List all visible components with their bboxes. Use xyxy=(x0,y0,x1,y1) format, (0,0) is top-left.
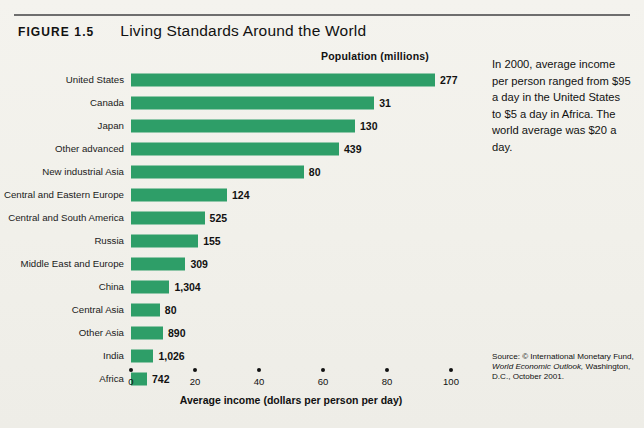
bar-row: Central and South America525 xyxy=(0,206,470,229)
figure-title: Living Standards Around the World xyxy=(120,22,366,40)
bar-track: 890 xyxy=(131,321,470,344)
header-divider xyxy=(14,14,630,16)
bar-row: Russia155 xyxy=(0,229,470,252)
bar xyxy=(131,165,304,178)
bar-row: India1,026 xyxy=(0,344,470,367)
bar-row: China1,304 xyxy=(0,275,470,298)
axis-tick-dot xyxy=(449,368,453,372)
bar xyxy=(131,142,339,155)
axis-tick-dot xyxy=(321,368,325,372)
source-publication: World Economic Outlook, xyxy=(492,362,583,371)
population-value: 1,304 xyxy=(174,281,200,293)
bar-row: Other Asia890 xyxy=(0,321,470,344)
population-value: 277 xyxy=(440,74,458,86)
bar-track: 130 xyxy=(131,114,470,137)
axis-tick-label: 20 xyxy=(190,376,201,387)
bar-row: United States277 xyxy=(0,68,470,91)
figure-number: FIGURE 1.5 xyxy=(18,25,94,39)
bar xyxy=(131,349,153,362)
category-label: Canada xyxy=(0,97,131,108)
category-label: Central and South America xyxy=(0,212,131,223)
category-label: Africa xyxy=(0,373,131,384)
bar xyxy=(131,211,205,224)
bar xyxy=(131,119,355,132)
category-label: Japan xyxy=(0,120,131,131)
category-label: Russia xyxy=(0,235,131,246)
bar-row: Canada31 xyxy=(0,91,470,114)
axis-tick-dot xyxy=(193,368,197,372)
population-value: 124 xyxy=(232,189,250,201)
population-value: 439 xyxy=(344,143,362,155)
bar-track: 1,026 xyxy=(131,344,470,367)
category-label: United States xyxy=(0,74,131,85)
category-label: Other Asia xyxy=(0,327,131,338)
axis-tick-label: 100 xyxy=(443,376,459,387)
bar-row: Other advanced439 xyxy=(0,137,470,160)
population-value: 309 xyxy=(190,258,208,270)
bar xyxy=(131,96,374,109)
bar-track: 277 xyxy=(131,68,470,91)
axis-tick-dot xyxy=(129,368,133,372)
bar-track: 525 xyxy=(131,206,470,229)
axis-tick-label: 80 xyxy=(382,376,393,387)
side-note: In 2000, average income per person range… xyxy=(492,56,632,156)
bar-track: 124 xyxy=(131,183,470,206)
bar xyxy=(131,234,198,247)
bar-row: Middle East and Europe309 xyxy=(0,252,470,275)
bar-track: 80 xyxy=(131,160,470,183)
population-value: 130 xyxy=(360,120,378,132)
bar xyxy=(131,73,435,86)
population-value: 80 xyxy=(309,166,321,178)
axis-tick-label: 40 xyxy=(254,376,265,387)
bar-rows: United States277Canada31Japan130Other ad… xyxy=(0,68,470,390)
bar-track: 309 xyxy=(131,252,470,275)
bar-track: 31 xyxy=(131,91,470,114)
population-value: 80 xyxy=(165,304,177,316)
population-value: 31 xyxy=(379,97,391,109)
bar-track: 80 xyxy=(131,298,470,321)
category-label: Central and Eastern Europe xyxy=(0,189,131,200)
bar xyxy=(131,188,227,201)
bar-track: 439 xyxy=(131,137,470,160)
source-note: Source: © International Monetary Fund, W… xyxy=(492,352,636,381)
bar xyxy=(131,326,163,339)
bar xyxy=(131,280,169,293)
population-value: 155 xyxy=(203,235,221,247)
axis-tick-label: 60 xyxy=(318,376,329,387)
figure-header: FIGURE 1.5 Living Standards Around the W… xyxy=(18,22,366,40)
population-column-header: Population (millions) xyxy=(300,50,450,62)
bar-track: 1,304 xyxy=(131,275,470,298)
bar-track: 155 xyxy=(131,229,470,252)
population-value: 525 xyxy=(210,212,228,224)
source-prefix: Source: © International Monetary Fund, xyxy=(492,352,634,361)
category-label: Other advanced xyxy=(0,143,131,154)
bar-row: Central Asia80 xyxy=(0,298,470,321)
figure-page: FIGURE 1.5 Living Standards Around the W… xyxy=(0,0,644,428)
bar-chart: Population (millions) United States277Ca… xyxy=(0,46,470,396)
population-value: 890 xyxy=(168,327,186,339)
category-label: China xyxy=(0,281,131,292)
bar xyxy=(131,257,185,270)
axis-tick-label: 0 xyxy=(128,376,133,387)
bar-row: Central and Eastern Europe124 xyxy=(0,183,470,206)
category-label: Middle East and Europe xyxy=(0,258,131,269)
axis-tick-dot xyxy=(385,368,389,372)
bar xyxy=(131,303,160,316)
axis-tick-dot xyxy=(257,368,261,372)
population-value: 1,026 xyxy=(158,350,184,362)
category-label: New industrial Asia xyxy=(0,166,131,177)
bar-row: New industrial Asia80 xyxy=(0,160,470,183)
x-axis-title: Average income (dollars per person per d… xyxy=(131,394,451,406)
category-label: India xyxy=(0,350,131,361)
category-label: Central Asia xyxy=(0,304,131,315)
bar-row: Japan130 xyxy=(0,114,470,137)
